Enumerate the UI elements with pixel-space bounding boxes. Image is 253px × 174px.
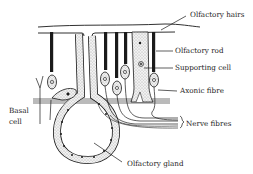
label-basal-cell-line2: cell (9, 118, 22, 125)
label-olfactory-rod: Olfactory rod (175, 47, 224, 54)
supporting-cell (131, 32, 153, 102)
epithelial-surface (38, 24, 200, 36)
label-axonic-fibre: Axonic fibre (180, 87, 224, 94)
label-supporting-cell: Supporting cell (175, 64, 231, 71)
label-nerve-fibres: Nerve fibres (186, 120, 231, 127)
olfactory-epithelium-diagram: Olfactory hairs Olfactory rod Supporting… (0, 0, 253, 174)
label-basal-cell-line1: Basal (9, 107, 29, 114)
label-olfactory-hairs: Olfactory hairs (190, 11, 245, 18)
label-olfactory-gland: Olfactory gland (127, 160, 184, 167)
